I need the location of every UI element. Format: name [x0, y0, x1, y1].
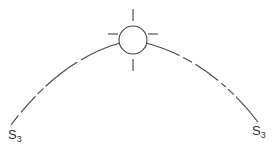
left-arc	[11, 43, 120, 125]
sun-path-diagram	[0, 0, 274, 150]
label-s3-left: S3	[8, 128, 22, 144]
sun-icon	[108, 9, 158, 71]
right-arc	[146, 43, 258, 122]
label-s3-right: S3	[252, 124, 266, 140]
